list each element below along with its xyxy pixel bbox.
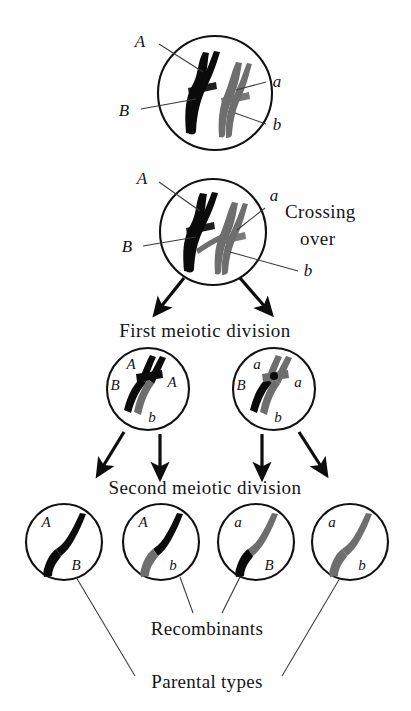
- second-meiotic-division-label: Second meiotic division: [109, 477, 302, 498]
- label-B-crossover: B: [122, 237, 133, 256]
- arrow-to-first-division-right: [240, 278, 266, 308]
- leader-recombinant-left: [180, 577, 193, 613]
- label-A-top: A: [134, 32, 146, 51]
- cell-gamete-aB: a B: [218, 504, 294, 580]
- label-b-top: b: [273, 115, 282, 134]
- centromere-dot-fd-right: [270, 372, 278, 380]
- label-B-fd-right: B: [236, 377, 245, 393]
- leader-parental-right: [282, 578, 340, 676]
- arrow-to-first-division-left: [160, 278, 184, 308]
- label-B-top: B: [119, 101, 130, 120]
- crossing-over-label-line2: over: [300, 228, 336, 249]
- label-b-gamete-4: b: [358, 557, 366, 573]
- cell-top-bivalent: A B a b: [119, 32, 281, 150]
- cell-first-division-left: A B A b: [107, 348, 189, 430]
- arrow-to-gamete-1: [102, 432, 124, 468]
- cell-crossover-bivalent: A B a b: [122, 169, 312, 285]
- label-b-fd-right: b: [274, 409, 282, 425]
- label-a-gamete-3: a: [234, 514, 242, 530]
- arrow-to-gamete-4: [299, 432, 322, 468]
- label-b-gamete-2: b: [169, 557, 177, 573]
- cell-gamete-Ab: A b: [123, 504, 199, 580]
- label-b-fd-left: b: [148, 409, 156, 425]
- label-a-top: a: [273, 72, 282, 91]
- label-a-fd-right-upper: a: [253, 356, 261, 372]
- label-a-gamete-4: a: [328, 514, 336, 530]
- leader-parental-left: [76, 577, 135, 676]
- label-A-gamete-1: A: [40, 514, 51, 530]
- parental-types-label: Parental types: [151, 671, 262, 692]
- label-A-fd-left-upper: A: [125, 356, 136, 372]
- label-A-gamete-2: A: [137, 514, 148, 530]
- label-A-fd-left-right: A: [166, 374, 177, 390]
- leader-recombinant-right: [222, 577, 240, 613]
- recombinants-label: Recombinants: [151, 618, 263, 639]
- label-A-crossover: A: [136, 169, 148, 188]
- cell-first-division-right: a B a b: [233, 348, 315, 430]
- meiosis-crossing-over-figure: A B a b A B a b Crossing over: [0, 0, 411, 711]
- label-B-gamete-1: B: [71, 557, 80, 573]
- label-a-fd-right-right: a: [294, 374, 302, 390]
- label-a-crossover: a: [270, 186, 279, 205]
- crossing-over-label-line1: Crossing: [285, 201, 356, 222]
- label-b-crossover: b: [304, 261, 313, 280]
- label-B-gamete-3: B: [264, 557, 273, 573]
- first-meiotic-division-label: First meiotic division: [119, 320, 290, 341]
- cell-gamete-AB: A B: [26, 504, 102, 580]
- label-B-fd-left: B: [110, 377, 119, 393]
- cell-gamete-ab: a b: [312, 504, 388, 580]
